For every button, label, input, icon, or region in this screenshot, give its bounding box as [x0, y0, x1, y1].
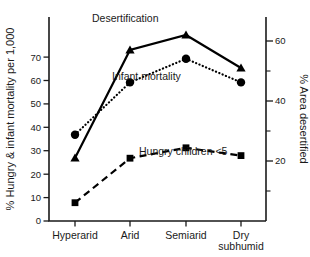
left-tick-label-60: 60	[30, 75, 41, 86]
chart-figure: 0 10 20 30 40 50 60 70 20 40 60	[0, 0, 310, 257]
left-tick-label-20: 20	[30, 169, 41, 180]
category-label-semiarid: Semiarid	[165, 229, 207, 241]
right-tick-label-20: 20	[275, 155, 286, 166]
data-point	[70, 153, 79, 161]
chart-svg: 0 10 20 30 40 50 60 70 20 40 60	[0, 0, 310, 257]
series-markers-infant-mortality	[71, 55, 245, 139]
data-point	[238, 152, 245, 159]
left-tick-label-40: 40	[30, 122, 41, 133]
left-axis	[49, 17, 266, 221]
left-tick-label-50: 50	[30, 98, 41, 109]
data-point	[182, 55, 190, 63]
category-label-hyperarid: Hyperarid	[52, 229, 98, 241]
data-point	[127, 155, 134, 162]
left-tick-label-30: 30	[30, 145, 41, 156]
right-tick-label-40: 40	[275, 95, 286, 106]
left-tick-label-70: 70	[30, 52, 41, 63]
series-annotation-infant-mortality: Infant mortality	[112, 70, 182, 82]
data-point	[72, 199, 79, 206]
category-label-subhumid: subhumid	[218, 240, 264, 252]
axis-frame	[49, 17, 266, 221]
data-point	[71, 131, 79, 139]
right-tick-label-60: 60	[275, 35, 286, 46]
series-desertification	[70, 30, 245, 161]
series-annotation-desertification: Desertification	[92, 12, 159, 24]
left-tick-label-0: 0	[36, 215, 41, 226]
x-axis-category-labels: Hyperarid Arid Semiarid Dry subhumid	[52, 229, 264, 252]
series-markers-desertification	[70, 30, 245, 161]
right-axis-tick-labels: 20 40 60	[275, 35, 286, 166]
category-label-arid: Arid	[121, 229, 140, 241]
left-tick-label-10: 10	[30, 192, 41, 203]
left-axis-ticks	[44, 57, 50, 221]
data-point	[236, 63, 245, 71]
left-axis-tick-labels: 0 10 20 30 40 50 60 70	[30, 52, 41, 227]
y-axis-title: % Hungry & infant mortality per 1,000	[4, 28, 16, 211]
data-point	[237, 78, 245, 86]
y2-axis-title: % Area desertified	[298, 74, 310, 163]
data-point	[181, 30, 190, 38]
series-annotation-hungry-children: Hungry children <5	[139, 145, 228, 157]
series-infant-mortality	[71, 55, 245, 139]
right-axis-ticks	[266, 41, 273, 191]
x-axis-ticks	[75, 221, 241, 227]
series-line-desertification	[75, 35, 241, 158]
